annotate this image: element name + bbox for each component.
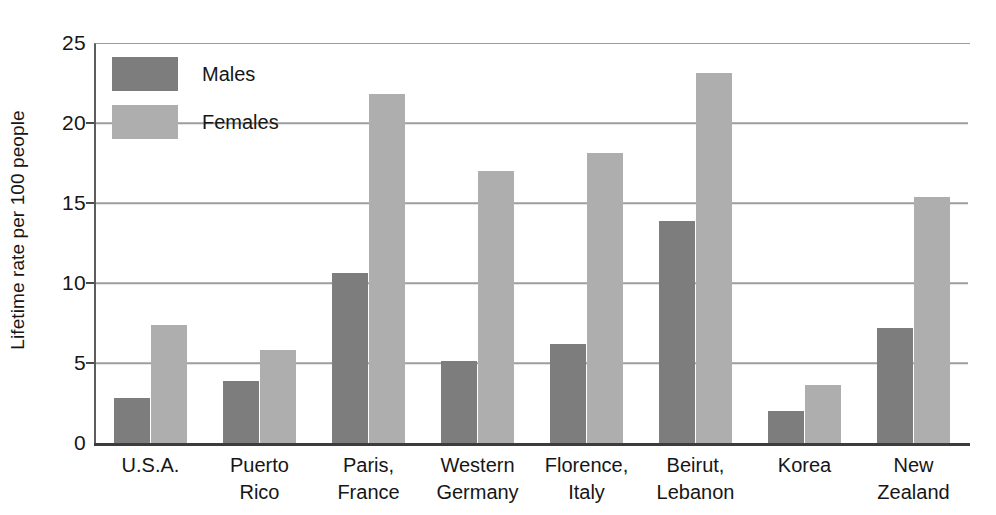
bar-males-7: [877, 328, 913, 443]
bar-females-3: [478, 171, 514, 443]
x-axis-label-6: Korea: [750, 452, 859, 479]
x-axis-label-line1: Puerto: [230, 454, 289, 476]
x-axis-label-5: Beirut,Lebanon: [641, 452, 750, 506]
x-axis-label-line1: Paris,: [343, 454, 394, 476]
bar-males-0: [114, 398, 150, 443]
chart-legend: MalesFemales: [112, 52, 362, 148]
x-axis-label-7: NewZealand: [859, 452, 968, 506]
x-axis-label-line2: Rico: [205, 479, 314, 506]
bar-females-6: [805, 385, 841, 443]
x-axis-label-line2: Germany: [423, 479, 532, 506]
legend-label-males: Males: [202, 63, 255, 86]
bar-females-1: [260, 350, 296, 443]
x-axis-label-line1: Florence,: [545, 454, 628, 476]
y-axis-title-text: Lifetime rate per 100 people: [7, 110, 29, 349]
x-axis-label-line2: Zealand: [859, 479, 968, 506]
bar-males-2: [332, 273, 368, 443]
x-axis-label-4: Florence,Italy: [532, 452, 641, 506]
legend-item-females: Females: [112, 100, 362, 144]
y-tick-label: 15: [34, 191, 86, 215]
x-axis-labels: U.S.A.PuertoRicoParis,FranceWesternGerma…: [96, 452, 968, 514]
bar-males-4: [550, 344, 586, 443]
x-axis-label-line1: U.S.A.: [122, 454, 180, 476]
legend-item-males: Males: [112, 52, 362, 96]
x-axis-label-line1: Beirut,: [667, 454, 725, 476]
x-axis-label-line2: France: [314, 479, 423, 506]
y-tick-label: 0: [34, 431, 86, 455]
bar-males-6: [768, 411, 804, 443]
x-axis-label-line1: New: [893, 454, 933, 476]
y-tick-label: 20: [34, 111, 86, 135]
bar-females-7: [914, 197, 950, 443]
x-axis-line: [94, 443, 970, 446]
bar-females-5: [696, 73, 732, 443]
y-axis-title: Lifetime rate per 100 people: [0, 0, 36, 460]
bar-females-0: [151, 325, 187, 443]
legend-label-females: Females: [202, 111, 279, 134]
legend-swatch-males: [112, 57, 178, 91]
bar-males-1: [223, 381, 259, 443]
bar-males-5: [659, 221, 695, 443]
x-axis-label-line2: Lebanon: [641, 479, 750, 506]
x-axis-label-3: WesternGermany: [423, 452, 532, 506]
chart-page: Lifetime rate per 100 people 2520151050 …: [0, 0, 996, 515]
x-axis-label-1: PuertoRico: [205, 452, 314, 506]
x-axis-label-line1: Korea: [778, 454, 831, 476]
legend-swatch-females: [112, 105, 178, 139]
y-tick-label: 10: [34, 271, 86, 295]
x-axis-label-2: Paris,France: [314, 452, 423, 506]
bar-females-4: [587, 153, 623, 443]
y-tick-label: 5: [34, 351, 86, 375]
bar-females-2: [369, 94, 405, 443]
bar-males-3: [441, 361, 477, 443]
x-axis-label-0: U.S.A.: [96, 452, 205, 479]
x-axis-label-line2: Italy: [532, 479, 641, 506]
y-tick-label: 25: [34, 31, 86, 55]
x-axis-label-line1: Western: [440, 454, 514, 476]
